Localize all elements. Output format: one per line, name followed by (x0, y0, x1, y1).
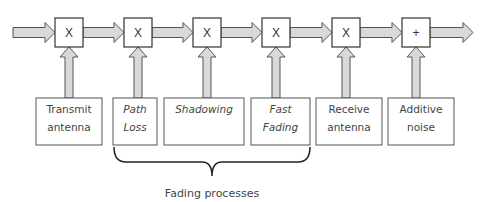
block-fast-fading: FastFading (251, 98, 310, 145)
block-label: Fading (263, 121, 299, 133)
block-label: Transmit (45, 103, 91, 115)
operator-symbol: X (134, 26, 142, 40)
input-arrow (267, 47, 285, 98)
signal-chain-diagram: XXXXX+ TransmitantennaPathLossShadowingF… (0, 0, 484, 202)
block-label: Fast (269, 103, 292, 115)
multiplier-node: X (262, 18, 290, 47)
multiplier-node: X (193, 18, 221, 47)
operator-symbol: X (65, 26, 73, 40)
input-arrow (60, 47, 78, 98)
signal-arrow (360, 23, 402, 43)
fading-brace (114, 147, 310, 176)
input-arrow (129, 47, 147, 98)
block-transmit-antenna: Transmitantenna (36, 98, 102, 145)
input-arrow (337, 47, 355, 98)
block-label: Loss (123, 121, 147, 133)
operator-symbol: X (342, 26, 350, 40)
block-path-loss: PathLoss (113, 98, 157, 145)
output-signal-arrow (430, 23, 473, 43)
signal-arrow (221, 23, 262, 43)
signal-arrow (152, 23, 193, 43)
input-arrow (407, 47, 425, 98)
block-additive-noise: Additivenoise (388, 98, 454, 145)
signal-arrow (290, 23, 332, 43)
operator-symbol: + (412, 26, 419, 40)
adder-node: + (402, 18, 430, 47)
block-label: noise (407, 121, 435, 133)
input-arrow (198, 47, 216, 98)
block-shadowing: Shadowing (164, 98, 244, 145)
multiplier-node: X (55, 18, 83, 47)
block-receive-antenna: Receiveantenna (316, 98, 382, 145)
block-label: antenna (47, 121, 90, 133)
block-label: Additive (400, 103, 443, 115)
block-label: Receive (328, 103, 369, 115)
block-label: antenna (327, 121, 370, 133)
input-signal-arrow (13, 23, 55, 43)
multiplier-node: X (332, 18, 360, 47)
block-label: Shadowing (175, 103, 233, 115)
operator-symbol: X (203, 26, 211, 40)
fading-processes-label: Fading processes (165, 187, 260, 200)
operator-symbol: X (272, 26, 280, 40)
signal-arrow (83, 23, 124, 43)
block-label: Path (123, 103, 147, 115)
multiplier-node: X (124, 18, 152, 47)
